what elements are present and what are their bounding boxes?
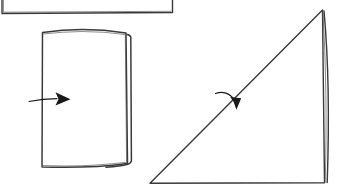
sketch-canvas [0,0,351,192]
sketch-svg [0,0,351,192]
paper-background [0,0,351,192]
